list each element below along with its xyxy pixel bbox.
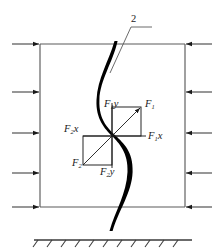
force-label-f2x: F2x: [64, 124, 78, 135]
diagram-canvas: [0, 0, 224, 249]
f1y-subscript: 1: [110, 103, 113, 110]
f2x-axis: x: [74, 123, 79, 134]
ground-hatch-tick: [117, 240, 122, 247]
ground-hatch-tick: [131, 240, 136, 247]
f1y-axis: y: [114, 98, 119, 109]
ground-hatch-tick: [145, 240, 150, 247]
f2x-subscript: 2: [70, 128, 73, 135]
lateral-load-arrows-right: [186, 44, 212, 207]
f1x-axis: x: [158, 130, 163, 141]
ground-hatch-tick: [89, 240, 94, 247]
lateral-load-arrows-left: [12, 44, 39, 207]
resultant-force-diagonal: [83, 108, 140, 165]
ground-hatch-tick: [75, 240, 80, 247]
callout-label-2: 2: [131, 14, 136, 25]
force-label-f1y: F1y: [104, 99, 118, 110]
resultant-vector: [83, 108, 140, 165]
f1-subscript: 1: [151, 103, 154, 110]
f2-subscript: 2: [78, 162, 81, 169]
callout-leader-line: [110, 27, 152, 73]
ground-hatch-tick: [103, 240, 108, 247]
force-label-f2y: F2y: [100, 167, 114, 178]
f1x-subscript: 1: [154, 135, 157, 142]
f2y-axis: y: [110, 166, 115, 177]
force-label-f1x: F1x: [148, 131, 162, 142]
ground-hatch-tick: [159, 240, 164, 247]
ground-hatch-tick: [173, 240, 178, 247]
ground-hatch-tick: [61, 240, 66, 247]
ground-hatch-tick: [47, 240, 52, 247]
f2y-subscript: 2: [106, 171, 109, 178]
ground-hatch-tick: [33, 240, 38, 247]
force-label-f2: F2: [72, 158, 82, 169]
ground-hatching: [33, 240, 178, 247]
force-label-f1: F1: [145, 99, 155, 110]
engineering-diagram: 2 F1y F1 F1x F2x F2 F2y: [0, 0, 224, 249]
ground-support: [33, 240, 192, 247]
